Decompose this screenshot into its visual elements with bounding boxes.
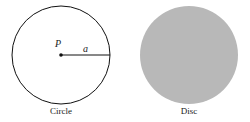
- disc-filled: [140, 6, 238, 104]
- disc-caption: Disc: [159, 106, 219, 116]
- radius-label-a: a: [83, 43, 88, 54]
- center-label-p: P: [55, 38, 61, 49]
- circle-caption: Circle: [31, 106, 91, 116]
- diagram-canvas: [0, 0, 250, 122]
